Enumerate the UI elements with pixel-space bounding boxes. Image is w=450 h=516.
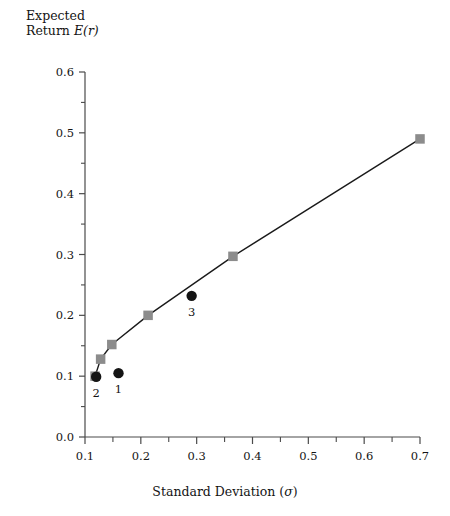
asset-point-label: 2 (93, 386, 100, 400)
y-tick-label: 0.1 (56, 369, 74, 383)
frontier-square-marker (107, 340, 117, 350)
frontier-square-marker (228, 252, 238, 262)
frontier-polyline (95, 139, 420, 376)
asset-markers (91, 291, 197, 382)
axes (85, 72, 420, 437)
plot-area: 0.00.10.20.30.40.50.60.10.20.30.40.50.60… (0, 0, 450, 516)
x-tick-label: 0.2 (132, 449, 150, 463)
x-tick-label: 0.7 (411, 449, 429, 463)
x-axis-title: Standard Deviation (σ) (0, 484, 450, 499)
y-tick-label: 0.3 (56, 248, 74, 262)
y-tick-label: 0.4 (56, 187, 74, 201)
frontier-square-marker (143, 311, 153, 321)
asset-circle-marker (91, 372, 101, 382)
frontier-square-marker (415, 134, 425, 144)
tick-labels: 0.00.10.20.30.40.50.60.10.20.30.40.50.60… (56, 65, 429, 463)
x-tick-label: 0.6 (355, 449, 373, 463)
x-axis-title-suffix: ) (293, 484, 298, 499)
y-tick-label: 0.0 (56, 430, 74, 444)
y-tick-label: 0.6 (56, 65, 74, 79)
asset-circle-marker (186, 291, 196, 301)
x-tick-label: 0.4 (243, 449, 261, 463)
frontier-markers (90, 134, 424, 381)
x-axis-title-sigma-symbol: σ (284, 484, 293, 499)
y-tick-label: 0.2 (56, 308, 74, 322)
asset-point-label: 3 (188, 305, 195, 319)
asset-point-label: 1 (115, 382, 122, 396)
asset-circle-marker (113, 368, 123, 378)
y-tick-label: 0.5 (56, 126, 74, 140)
x-tick-label: 0.1 (76, 449, 94, 463)
x-axis-title-prefix: Standard Deviation ( (152, 484, 284, 499)
tick-marks (79, 72, 420, 444)
frontier-line (95, 139, 420, 376)
chart-container: ExpectedReturn E(r) 0.00.10.20.30.40.50.… (0, 0, 450, 516)
frontier-square-marker (96, 354, 106, 364)
x-tick-label: 0.3 (188, 449, 206, 463)
x-tick-label: 0.5 (299, 449, 317, 463)
